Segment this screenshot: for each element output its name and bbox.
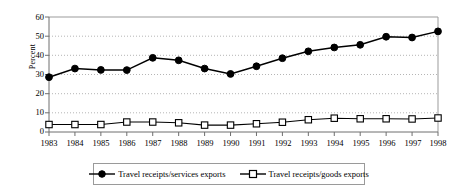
data-point-marker: [279, 55, 286, 62]
data-point-marker: [253, 121, 259, 127]
data-point-marker: [227, 71, 234, 78]
data-point-marker: [46, 74, 53, 81]
open-square-marker-icon: [240, 169, 266, 179]
data-point-marker: [201, 122, 207, 128]
data-point-marker: [149, 54, 156, 61]
data-point-marker: [97, 67, 104, 74]
data-point-marker: [123, 67, 130, 74]
data-point-marker: [150, 119, 156, 125]
data-point-marker: [227, 122, 233, 128]
legend-entry-services: Travel receipts/services exports: [89, 169, 225, 179]
legend-entry-goods: Travel receipts/goods exports: [240, 169, 369, 179]
data-point-marker: [435, 28, 442, 35]
x-axis-ticks: [49, 132, 438, 136]
data-point-marker: [175, 120, 181, 126]
data-point-marker: [383, 116, 389, 122]
data-point-marker: [331, 115, 337, 121]
data-point-marker: [201, 65, 208, 72]
filled-circle-marker-icon: [89, 169, 115, 179]
data-point-marker: [46, 121, 52, 127]
legend-label-goods: Travel receipts/goods exports: [269, 169, 369, 179]
data-point-marker: [72, 65, 79, 72]
gridlines: [49, 36, 438, 113]
x-tick-label-1998: 1998: [421, 138, 455, 148]
data-point-marker: [357, 116, 363, 122]
series-line: [49, 31, 438, 77]
legend-label-services: Travel receipts/services exports: [118, 169, 225, 179]
data-point-marker: [383, 33, 390, 40]
data-point-marker: [253, 63, 260, 70]
data-point-marker: [98, 121, 104, 127]
data-point-marker: [435, 115, 441, 121]
data-point-marker: [331, 44, 338, 51]
series-line: [49, 118, 438, 125]
series-goods-exports: [46, 115, 441, 128]
data-point-marker: [409, 116, 415, 122]
travel-receipts-line-chart: Percent 60 50 40 30 20 10 0: [0, 0, 455, 194]
data-point-marker: [305, 48, 312, 55]
data-point-marker: [357, 41, 364, 48]
data-point-marker: [175, 57, 182, 64]
data-point-marker: [72, 121, 78, 127]
data-point-marker: [124, 119, 130, 125]
data-point-marker: [409, 34, 416, 41]
data-point-marker: [279, 119, 285, 125]
data-point-marker: [305, 117, 311, 123]
chart-legend: Travel receipts/services exports Travel …: [93, 163, 365, 185]
